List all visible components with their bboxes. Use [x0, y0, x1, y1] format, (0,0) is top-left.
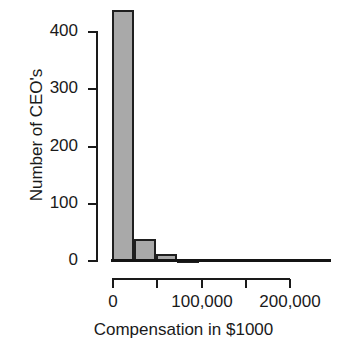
x-tick-mark	[112, 279, 114, 288]
x-tick-label: 100,000	[171, 292, 232, 312]
x-axis-title: Compensation in $1000	[0, 320, 337, 340]
x-tick-label: 0	[108, 292, 117, 312]
x-tick-mark	[156, 279, 158, 288]
x-tick-label: 200,000	[259, 292, 320, 312]
x-axis-baseline	[111, 259, 331, 262]
x-tick-mark	[289, 279, 291, 288]
histogram-bar	[134, 239, 156, 261]
histogram-figure: Number of CEO's 400 300 200 100 0 0 100,…	[0, 0, 337, 357]
x-tick-mark	[201, 279, 203, 288]
x-tick-mark	[245, 279, 247, 288]
histogram-bar	[112, 10, 134, 261]
